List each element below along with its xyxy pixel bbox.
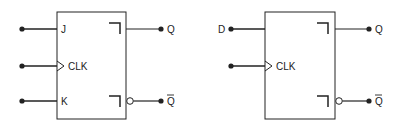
d-clk-label: CLK (276, 61, 296, 72)
jk-k-label: K (61, 96, 68, 107)
d-d-label: D (218, 24, 225, 35)
jk-qbar-corner-mark (109, 96, 120, 107)
jk-q-terminal (158, 26, 163, 31)
flipflop-diagram: J CLK K Q Q D CLK Q Q (0, 0, 404, 133)
jk-j-terminal (19, 26, 24, 31)
d-q-corner-mark (317, 23, 328, 34)
d-clock-triangle-icon (265, 61, 272, 71)
jk-j-label: J (61, 24, 66, 35)
jk-qbar-terminal (158, 98, 163, 103)
d-clk-terminal (228, 63, 233, 68)
jk-flipflop (19, 12, 163, 119)
d-d-terminal (228, 26, 233, 31)
d-inversion-bubble-icon (336, 98, 343, 105)
d-q-label: Q (375, 24, 383, 35)
jk-clk-terminal (19, 63, 24, 68)
jk-inversion-bubble-icon (127, 98, 134, 105)
d-qbar-terminal (366, 98, 371, 103)
jk-clock-triangle-icon (57, 61, 64, 71)
jk-q-corner-mark (109, 23, 120, 34)
jk-clk-label: CLK (68, 61, 88, 72)
d-qbar-corner-mark (317, 96, 328, 107)
jk-k-terminal (19, 98, 24, 103)
jk-q-label: Q (167, 24, 175, 35)
jk-qbar-label: Q (167, 96, 175, 107)
d-q-terminal (366, 26, 371, 31)
d-flipflop (228, 12, 371, 119)
d-qbar-label: Q (375, 96, 383, 107)
